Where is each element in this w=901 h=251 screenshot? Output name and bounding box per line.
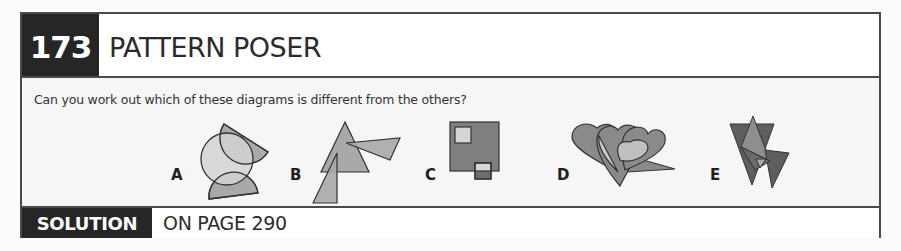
triangle-tall-icon (313, 153, 337, 203)
diagram-c (450, 122, 499, 179)
puzzle-number: 173 (22, 14, 99, 76)
triangle-e3-icon (765, 150, 789, 188)
solution-bar: SOLUTION ON PAGE 290 (22, 206, 879, 238)
diagram-d (572, 124, 675, 186)
square-inner-icon (455, 127, 471, 143)
circle-icon (201, 133, 253, 185)
puzzle-frame: 173 PATTERN POSER Can you work out which… (20, 12, 881, 238)
diagrams-canvas (22, 78, 879, 206)
puzzle-header: 173 PATTERN POSER (22, 14, 879, 78)
puzzle-title: PATTERN POSER (99, 14, 879, 76)
diagram-a (201, 124, 268, 199)
diagram-b (313, 122, 400, 203)
diagram-e (730, 116, 789, 188)
solution-page-reference: ON PAGE 290 (152, 208, 879, 238)
puzzle-body: Can you work out which of these diagrams… (22, 78, 879, 206)
solution-label: SOLUTION (22, 208, 152, 238)
